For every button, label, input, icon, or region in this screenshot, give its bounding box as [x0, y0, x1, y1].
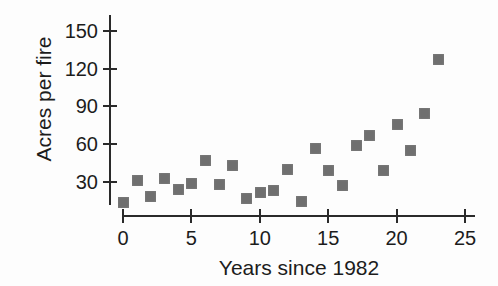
data-point-marker [433, 54, 444, 65]
x-tick-label: 20 [376, 228, 418, 248]
data-point-marker [419, 108, 430, 119]
data-point-marker [310, 143, 321, 154]
x-tick-mark [327, 209, 329, 223]
y-tick-mark [103, 30, 117, 32]
y-tick-label: 90 [56, 96, 98, 116]
y-axis-line [109, 15, 111, 205]
data-point-marker [241, 193, 252, 204]
data-point-marker [173, 184, 184, 195]
x-tick-mark [122, 209, 124, 223]
data-point-marker [296, 196, 307, 207]
x-axis-title: Years since 1982 [149, 257, 449, 279]
scatterplot-figure: Acres per fire Years since 1982 30609012… [0, 0, 498, 286]
x-tick-mark [190, 209, 192, 223]
y-axis-title: Acres per fire [33, 0, 55, 199]
y-tick-mark [103, 143, 117, 145]
data-point-marker [227, 160, 238, 171]
data-point-marker [268, 185, 279, 196]
y-tick-label: 60 [56, 134, 98, 154]
x-tick-mark [396, 209, 398, 223]
data-point-marker [255, 187, 266, 198]
data-point-marker [351, 140, 362, 151]
y-tick-mark [103, 105, 117, 107]
data-point-marker [145, 191, 156, 202]
data-point-marker [118, 197, 129, 208]
y-tick-mark [103, 181, 117, 183]
x-tick-label: 15 [307, 228, 349, 248]
data-point-marker [378, 165, 389, 176]
data-point-marker [200, 155, 211, 166]
y-tick-label: 30 [56, 172, 98, 192]
data-point-marker [323, 165, 334, 176]
y-tick-label: 120 [56, 59, 98, 79]
data-point-marker [132, 175, 143, 186]
data-point-marker [337, 180, 348, 191]
data-point-marker [186, 178, 197, 189]
x-tick-label: 5 [170, 228, 212, 248]
x-tick-mark [259, 209, 261, 223]
x-axis-line [122, 215, 475, 217]
data-point-marker [159, 173, 170, 184]
data-point-marker [405, 145, 416, 156]
plot-area: Acres per fire Years since 1982 30609012… [0, 0, 498, 286]
y-tick-mark [103, 68, 117, 70]
y-tick-label: 150 [56, 21, 98, 41]
data-point-marker [214, 179, 225, 190]
x-tick-label: 0 [102, 228, 144, 248]
x-tick-label: 25 [444, 228, 486, 248]
x-tick-label: 10 [239, 228, 281, 248]
x-tick-mark [464, 209, 466, 223]
data-point-marker [392, 119, 403, 130]
data-point-marker [282, 164, 293, 175]
data-point-marker [364, 130, 375, 141]
